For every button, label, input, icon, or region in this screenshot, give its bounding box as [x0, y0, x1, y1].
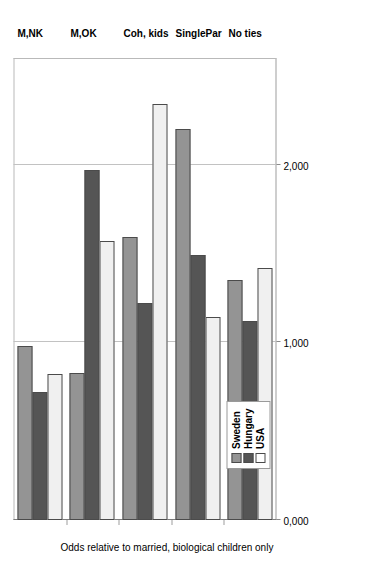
legend-item-hungary: Hungary [243, 408, 253, 463]
legend-item-sweden: Sweden [231, 408, 241, 463]
legend-label-usa: USA [255, 428, 265, 449]
x-tick-label: 1,000 [283, 338, 308, 349]
legend-swatch-sweden [231, 453, 241, 463]
legend-swatch-usa [255, 453, 265, 463]
bar-hungary-m-nk [32, 392, 47, 520]
category-tick [118, 520, 119, 525]
category-label: Coh, kids [123, 28, 168, 39]
legend-label-hungary: Hungary [243, 408, 253, 449]
legend-label-sweden: Sweden [231, 411, 241, 449]
bar-sweden-m-ok [69, 373, 84, 520]
bar-sweden-coh-kids [122, 237, 137, 520]
category-label: SinglePar [175, 28, 221, 39]
bar-group [13, 58, 66, 520]
x-axis-title: Odds relative to married, biological chi… [60, 542, 273, 553]
bar-group [171, 58, 224, 520]
category-tick [171, 520, 172, 525]
category-label: No ties [228, 28, 261, 39]
bar-hungary-coh-kids [137, 303, 152, 520]
bar-usa-m-ok [99, 241, 114, 520]
bar-sweden-singlepar [175, 129, 190, 520]
x-tick-label: 0,000 [283, 516, 308, 527]
chart-figure: Sweden Hungary USA 0,0001,0002,000 M,NKM… [0, 0, 369, 570]
category-label: M,NK [17, 28, 43, 39]
legend-swatch-hungary [243, 453, 253, 463]
bar-group [118, 58, 171, 520]
chart-legend: Sweden Hungary USA [226, 401, 270, 469]
category-label: M,OK [70, 28, 96, 39]
bar-hungary-singlepar [190, 255, 205, 520]
bar-sweden-m-nk [17, 346, 32, 520]
x-tick-mark [276, 519, 280, 520]
category-tick [66, 520, 67, 525]
category-tick [223, 520, 224, 525]
bar-usa-m-nk [47, 374, 62, 520]
x-tick-label: 2,000 [283, 161, 308, 172]
bar-usa-no-ties [257, 268, 272, 520]
bar-usa-coh-kids [152, 104, 167, 520]
x-tick-mark [276, 341, 280, 342]
bar-hungary-m-ok [84, 170, 99, 520]
x-tick-mark [276, 164, 280, 165]
legend-item-usa: USA [255, 408, 265, 463]
bar-group [66, 58, 119, 520]
bar-usa-singlepar [205, 317, 220, 520]
bar-sweden-no-ties [227, 280, 242, 520]
